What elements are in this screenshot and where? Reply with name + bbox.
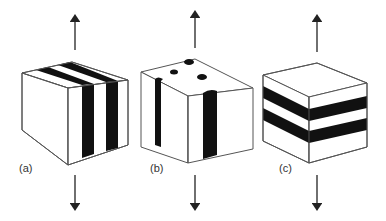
rod-end: [170, 70, 178, 75]
panel-label-a: (a): [19, 162, 32, 174]
panel-label-c: (c): [279, 162, 292, 174]
panel-label-b: (b): [150, 162, 163, 174]
cube-b: [141, 59, 253, 163]
panel-a: [22, 18, 128, 207]
stripe: [82, 84, 94, 158]
rod-end: [197, 74, 207, 80]
rod: [203, 90, 217, 159]
panel-b: [141, 14, 253, 207]
panel-c: [263, 18, 367, 207]
cube-a: [22, 62, 128, 165]
cube-c: [263, 63, 367, 163]
rod-end: [184, 59, 194, 65]
diagram-canvas: [0, 0, 386, 221]
stripe: [106, 81, 118, 151]
